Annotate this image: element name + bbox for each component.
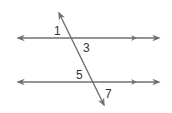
parallel-lines-diagram: 1 3 5 7: [0, 0, 172, 113]
angle-label-3: 3: [83, 41, 90, 55]
transversal-line: [59, 13, 104, 105]
angle-label-5: 5: [76, 68, 83, 82]
parallel-line-bottom: [18, 79, 159, 85]
angle-label-1: 1: [54, 24, 61, 38]
angle-label-7: 7: [105, 87, 112, 101]
